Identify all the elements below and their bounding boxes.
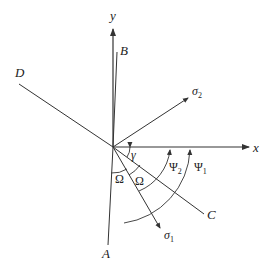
line-d-label: D bbox=[14, 65, 25, 80]
omega-right-label: Ω bbox=[135, 174, 144, 188]
y-axis-label: y bbox=[108, 8, 116, 23]
gamma-arc bbox=[127, 147, 130, 157]
line-c bbox=[113, 147, 204, 214]
line-b-label: B bbox=[120, 43, 128, 58]
omega-left-label: Ω bbox=[115, 172, 124, 186]
sigma1-label: σ1 bbox=[164, 228, 174, 244]
gamma-label: γ bbox=[131, 148, 136, 162]
sigma2-vector bbox=[113, 98, 188, 147]
psi1-label: Ψ1 bbox=[194, 160, 207, 176]
x-axis-label: x bbox=[252, 140, 259, 155]
psi2-label: Ψ2 bbox=[169, 160, 182, 176]
line-a bbox=[108, 147, 113, 245]
line-d bbox=[19, 84, 113, 147]
sigma2-label: σ2 bbox=[192, 84, 202, 100]
line-a-label: A bbox=[101, 246, 110, 261]
line-c-label: C bbox=[207, 207, 216, 222]
stress-direction-diagram: y x B D C A σ2 σ1 γ Ω Ω Ψ2 Ψ1 bbox=[0, 0, 269, 271]
